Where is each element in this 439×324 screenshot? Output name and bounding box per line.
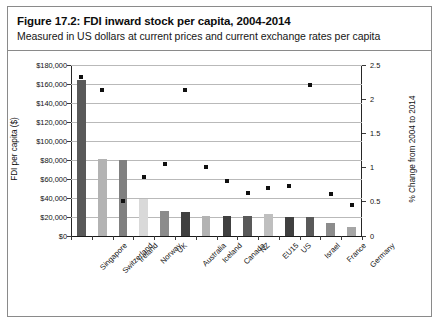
x-axis-tick <box>196 236 197 240</box>
x-axis-tick <box>92 236 93 240</box>
x-axis-tick <box>362 236 363 240</box>
x-axis-tick <box>320 236 321 240</box>
y2-axis-tick-label: 2 <box>370 94 374 103</box>
x-axis-tick <box>217 236 218 240</box>
scatter-marker <box>225 179 229 183</box>
y2-axis-tick-label: 1 <box>370 163 374 172</box>
x-axis-category-label: France <box>345 241 368 264</box>
scatter-marker <box>266 186 270 190</box>
y-axis-tick-label: $20,000 <box>40 212 67 221</box>
scatter-marker <box>142 175 146 179</box>
y-axis-tick-label: $120,000 <box>36 117 67 126</box>
x-axis-category-label: EU15 <box>281 241 301 261</box>
x-axis-category-label: Israel <box>322 241 342 261</box>
scatter-marker <box>163 162 167 166</box>
x-axis-tick <box>71 236 72 240</box>
y2-axis-tick-label: 0 <box>370 231 374 240</box>
x-axis-tick <box>175 236 176 240</box>
y-axis-tick-label: $0 <box>59 231 67 240</box>
x-axis-labels: SingaporeSwitzerlandIrelandNorwayUKAustr… <box>71 241 362 287</box>
scatter-marker <box>183 88 187 92</box>
y2-axis-tick <box>362 167 366 168</box>
figure-page: Figure 17.2: FDI inward stock per capita… <box>0 0 439 324</box>
scatter-marker <box>329 192 333 196</box>
y-axis-tick-label: $100,000 <box>36 136 67 145</box>
scatter-marker <box>287 184 291 188</box>
y2-axis-tick-label: 1.5 <box>370 128 380 137</box>
x-axis-category-label: US <box>299 241 313 255</box>
x-axis-tick <box>154 236 155 240</box>
y-axis-tick-label: $140,000 <box>36 98 67 107</box>
y-axis-tick-label: $160,000 <box>36 79 67 88</box>
scatter-marker <box>100 88 104 92</box>
figure-subtitle: Measured in US dollars at current prices… <box>17 30 422 44</box>
chart-canvas: FDI per capita ($) % Change from 2004 to… <box>8 51 431 288</box>
y2-axis-tick-label: 0.5 <box>370 197 380 206</box>
scatter-marker <box>79 75 83 79</box>
y2-axis-tick-label: 2.5 <box>370 60 380 69</box>
scatter-marker <box>246 191 250 195</box>
scatter-series <box>71 65 362 236</box>
scatter-marker <box>204 165 208 169</box>
x-axis-tick <box>279 236 280 240</box>
y2-axis-tick <box>362 201 366 202</box>
x-axis-tick <box>237 236 238 240</box>
y2-axis-tick <box>362 65 366 66</box>
y-axis-tick-label: $80,000 <box>40 155 67 164</box>
x-axis-tick <box>341 236 342 240</box>
y-axis-tick-label: $180,000 <box>36 60 67 69</box>
y-axis-tick-label: $60,000 <box>40 174 67 183</box>
x-axis-tick <box>258 236 259 240</box>
scatter-marker <box>121 199 125 203</box>
plot-area: $0$20,000$40,000$60,000$80,000$100,000$1… <box>71 65 362 236</box>
y-axis-tick-label: $40,000 <box>40 193 67 202</box>
figure-title: Figure 17.2: FDI inward stock per capita… <box>17 14 422 28</box>
x-axis-tick <box>113 236 114 240</box>
y2-axis-tick <box>362 133 366 134</box>
y-axis-title: FDI per capita ($) <box>10 117 19 181</box>
scatter-marker <box>350 203 354 207</box>
x-axis-category-label: Germany <box>368 241 396 269</box>
scatter-marker <box>308 83 312 87</box>
y2-axis-title: % Change from 2004 to 2014 <box>408 95 417 202</box>
y2-axis-tick <box>362 99 366 100</box>
x-axis-tick <box>133 236 134 240</box>
figure-container: Figure 17.2: FDI inward stock per capita… <box>7 6 432 317</box>
figure-header: Figure 17.2: FDI inward stock per capita… <box>8 7 431 51</box>
x-axis-tick <box>300 236 301 240</box>
